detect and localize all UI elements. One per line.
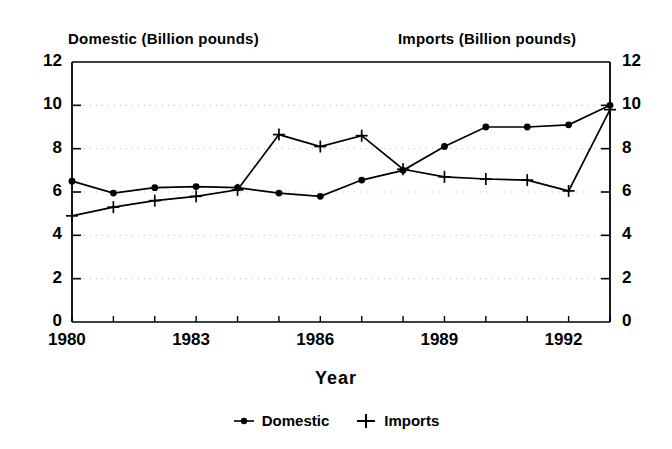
left-ytick-label-2: 2 (24, 268, 62, 288)
marker-domestic-1987 (358, 177, 365, 184)
xtick-label-1989: 1989 (420, 330, 458, 350)
marker-domestic-1981 (110, 190, 117, 197)
right-ytick-label-8: 8 (622, 138, 631, 158)
marker-domestic-1983 (193, 183, 200, 190)
left-ytick-label-10: 10 (24, 94, 62, 114)
x-axis-title: Year (0, 368, 672, 389)
xtick-label-1980: 1980 (48, 330, 86, 350)
legend-label-domestic: Domestic (262, 412, 330, 429)
legend-item-imports: Imports (355, 412, 439, 429)
xtick-label-1992: 1992 (545, 330, 583, 350)
marker-domestic-1992 (565, 121, 572, 128)
marker-domestic-1982 (151, 184, 158, 191)
series-line-domestic (72, 105, 610, 196)
legend-marker-plus-icon (355, 414, 377, 428)
right-ytick-label-2: 2 (622, 268, 631, 288)
right-ytick-label-12: 12 (622, 51, 641, 71)
left-ytick-label-6: 6 (24, 181, 62, 201)
left-ytick-label-4: 4 (24, 224, 62, 244)
xtick-label-1983: 1983 (172, 330, 210, 350)
legend-marker-dot-icon (233, 414, 255, 428)
right-ytick-label-4: 4 (622, 224, 631, 244)
marker-domestic-1980 (69, 178, 76, 185)
marker-domestic-1990 (482, 124, 489, 131)
marker-domestic-1991 (524, 124, 531, 131)
legend-label-imports: Imports (384, 412, 439, 429)
left-ytick-label-0: 0 (24, 311, 62, 331)
marker-domestic-1985 (276, 190, 283, 197)
right-ytick-label-0: 0 (622, 311, 631, 331)
marker-domestic-1986 (317, 193, 324, 200)
marker-domestic-1989 (441, 143, 448, 150)
legend-item-domestic: Domestic (233, 412, 330, 429)
chart-container: Domestic (Billion pounds) Imports (Billi… (0, 0, 672, 449)
right-ytick-label-10: 10 (622, 94, 641, 114)
xtick-label-1986: 1986 (296, 330, 334, 350)
left-ytick-label-12: 12 (24, 51, 62, 71)
chart-legend: DomesticImports (0, 412, 672, 429)
right-ytick-label-6: 6 (622, 181, 631, 201)
left-ytick-label-8: 8 (24, 138, 62, 158)
